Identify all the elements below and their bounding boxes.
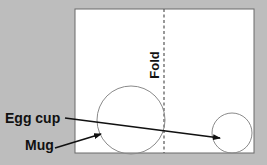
fold-label: Fold	[147, 51, 162, 78]
mug-label: Mug	[25, 137, 54, 153]
diagram-canvas: Fold Egg cup Mug	[0, 0, 267, 165]
egg-cup-label: Egg cup	[5, 110, 60, 126]
diagram-svg: Fold Egg cup Mug	[0, 0, 267, 165]
